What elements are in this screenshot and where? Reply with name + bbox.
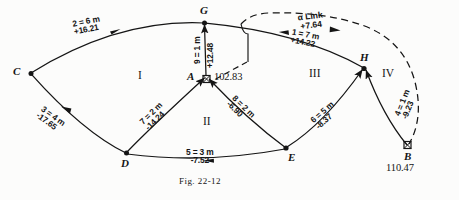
node-label-A: A — [187, 71, 194, 82]
node-G-marker — [202, 21, 207, 26]
node-value-A: 102.83 — [214, 72, 242, 83]
node-value-B: 110.47 — [386, 163, 414, 174]
node-B-marker — [404, 142, 411, 149]
edge-label-5: 5 = 3 m -7.52 — [186, 148, 214, 165]
node-label-H: H — [360, 52, 369, 63]
edge-1-arrow — [279, 30, 289, 35]
region-label-II: II — [203, 116, 211, 128]
node-label-B: B — [404, 151, 411, 162]
edge-9-length: 9 = 1 m — [193, 36, 202, 64]
figure-caption: Fig. 22-12 — [179, 177, 221, 186]
alpha-link-label: α Link +7.64 — [297, 11, 324, 31]
node-C-marker — [29, 71, 34, 76]
region-label-I: I — [138, 70, 142, 82]
node-label-G: G — [200, 5, 208, 16]
node-D-marker — [124, 151, 129, 156]
node-E-marker — [283, 145, 288, 150]
region-label-III: III — [309, 68, 321, 80]
link-crossing-jog — [241, 24, 248, 62]
figure-22-12: C G A 102.83 H B 110.47 D E I II III IV … — [0, 0, 459, 200]
caption-prefix: Fig. — [179, 176, 195, 186]
edge-1-path — [206, 23, 365, 68]
edge-label-9-correction-wrap: +12.48 — [206, 43, 214, 68]
region-label-IV: IV — [382, 68, 394, 80]
alpha-link-arrow — [330, 26, 341, 32]
node-label-C: C — [13, 66, 20, 77]
node-label-E: E — [288, 152, 295, 163]
edge-9-correction: +12.48 — [206, 43, 215, 68]
node-label-D: D — [121, 158, 129, 169]
edge-label-9-length-wrap: 9 = 1 m — [193, 36, 202, 64]
edge-5-correction: -7.52 — [186, 156, 214, 165]
caption-number: 22-12 — [198, 176, 221, 186]
node-H-marker — [361, 66, 366, 71]
edge-3-arrow — [61, 107, 71, 114]
